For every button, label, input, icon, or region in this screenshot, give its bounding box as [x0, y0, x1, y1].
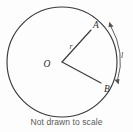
radius-line-to-b — [62, 62, 101, 83]
label-arc-length-l: l — [121, 51, 124, 60]
label-point-b: B — [104, 84, 110, 94]
figure-caption: Not drawn to scale — [0, 117, 133, 127]
arc-arrowhead-bottom-icon — [114, 79, 119, 85]
geometry-figure: O A B r l Not drawn to scale — [0, 0, 133, 132]
label-center-o: O — [44, 59, 51, 69]
arc-arrowhead-top-icon — [109, 22, 114, 27]
label-point-a: A — [92, 20, 99, 30]
circle-arc-diagram: O A B r l — [0, 0, 133, 132]
radius-line-to-a — [62, 30, 91, 62]
